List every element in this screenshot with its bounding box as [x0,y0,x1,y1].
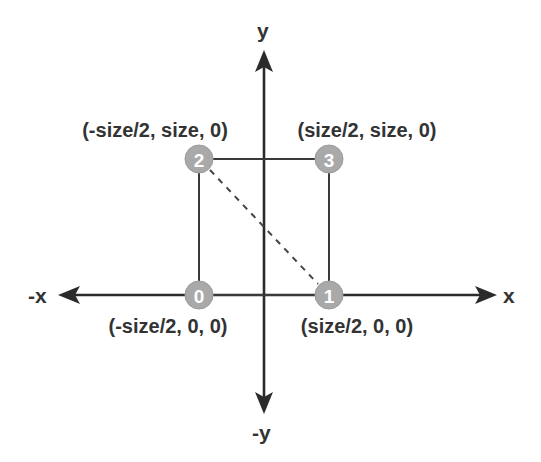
vertex-3: 3 [315,145,343,173]
vertex-0-coord-label: (-size/2, 0, 0) [109,315,228,337]
vertex-1-coord-label: (size/2, 0, 0) [301,315,413,337]
x-positive-label: x [503,284,515,307]
coordinate-diagram: 0 1 2 3 (-size/2, size, 0) (size/2, size… [0,0,541,462]
x-negative-label: -x [28,284,47,307]
vertex-3-label: 3 [324,150,335,171]
vertex-1-label: 1 [324,286,335,307]
vertex-2-coord-label: (-size/2, size, 0) [82,119,228,141]
y-negative-label: -y [252,421,271,444]
y-positive-label: y [257,19,269,42]
y-axis [255,50,273,414]
vertex-2-label: 2 [194,150,205,171]
vertex-3-coord-label: (size/2, size, 0) [298,119,437,141]
vertex-2: 2 [185,145,213,173]
vertex-1: 1 [315,281,343,309]
vertex-0: 0 [185,281,213,309]
vertex-0-label: 0 [194,286,205,307]
